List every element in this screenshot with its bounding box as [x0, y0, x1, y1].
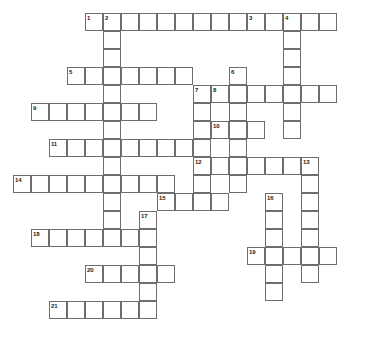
crossword-cell[interactable] — [85, 139, 103, 157]
crossword-cell[interactable] — [175, 67, 193, 85]
crossword-cell[interactable] — [139, 175, 157, 193]
crossword-cell[interactable] — [139, 67, 157, 85]
crossword-cell[interactable] — [139, 301, 157, 319]
crossword-cell[interactable] — [193, 193, 211, 211]
crossword-cell[interactable] — [85, 103, 103, 121]
crossword-cell[interactable] — [193, 103, 211, 121]
crossword-cell[interactable] — [265, 265, 283, 283]
crossword-cell[interactable] — [121, 139, 139, 157]
crossword-cell[interactable] — [49, 301, 67, 319]
crossword-cell[interactable] — [49, 139, 67, 157]
crossword-cell[interactable] — [121, 103, 139, 121]
crossword-cell[interactable] — [301, 265, 319, 283]
crossword-cell[interactable] — [157, 139, 175, 157]
crossword-cell[interactable] — [265, 229, 283, 247]
crossword-cell[interactable] — [211, 157, 229, 175]
crossword-cell[interactable] — [265, 283, 283, 301]
crossword-cell[interactable] — [103, 175, 121, 193]
crossword-cell[interactable] — [13, 175, 31, 193]
crossword-cell[interactable] — [229, 67, 247, 85]
crossword-cell[interactable] — [247, 121, 265, 139]
crossword-cell[interactable] — [103, 13, 121, 31]
crossword-cell[interactable] — [103, 193, 121, 211]
crossword-cell[interactable] — [193, 13, 211, 31]
crossword-cell[interactable] — [229, 175, 247, 193]
crossword-cell[interactable] — [193, 175, 211, 193]
crossword-cell[interactable] — [103, 229, 121, 247]
crossword-cell[interactable] — [193, 139, 211, 157]
crossword-cell[interactable] — [283, 67, 301, 85]
crossword-cell[interactable] — [31, 229, 49, 247]
crossword-cell[interactable] — [229, 103, 247, 121]
crossword-cell[interactable] — [157, 175, 175, 193]
crossword-cell[interactable] — [319, 247, 337, 265]
crossword-cell[interactable] — [247, 247, 265, 265]
crossword-cell[interactable] — [193, 85, 211, 103]
crossword-cell[interactable] — [301, 85, 319, 103]
crossword-cell[interactable] — [157, 265, 175, 283]
crossword-cell[interactable] — [211, 121, 229, 139]
crossword-cell[interactable] — [229, 139, 247, 157]
crossword-cell[interactable] — [265, 247, 283, 265]
crossword-cell[interactable] — [85, 265, 103, 283]
crossword-cell[interactable] — [49, 229, 67, 247]
crossword-cell[interactable] — [211, 193, 229, 211]
crossword-cell[interactable] — [103, 265, 121, 283]
crossword-cell[interactable] — [301, 193, 319, 211]
crossword-cell[interactable] — [175, 139, 193, 157]
crossword-cell[interactable] — [103, 49, 121, 67]
crossword-cell[interactable] — [67, 67, 85, 85]
crossword-cell[interactable] — [265, 13, 283, 31]
crossword-cell[interactable] — [121, 229, 139, 247]
crossword-cell[interactable] — [139, 229, 157, 247]
crossword-cell[interactable] — [175, 13, 193, 31]
crossword-cell[interactable] — [85, 13, 103, 31]
crossword-cell[interactable] — [283, 85, 301, 103]
crossword-cell[interactable] — [121, 67, 139, 85]
crossword-cell[interactable] — [121, 13, 139, 31]
crossword-cell[interactable] — [211, 85, 229, 103]
crossword-cell[interactable] — [319, 13, 337, 31]
crossword-cell[interactable] — [121, 175, 139, 193]
crossword-cell[interactable] — [193, 121, 211, 139]
crossword-cell[interactable] — [247, 85, 265, 103]
crossword-cell[interactable] — [301, 13, 319, 31]
crossword-cell[interactable] — [283, 157, 301, 175]
crossword-cell[interactable] — [157, 193, 175, 211]
crossword-cell[interactable] — [157, 67, 175, 85]
crossword-cell[interactable] — [265, 157, 283, 175]
crossword-cell[interactable] — [103, 31, 121, 49]
crossword-cell[interactable] — [157, 13, 175, 31]
crossword-cell[interactable] — [67, 175, 85, 193]
crossword-cell[interactable] — [139, 211, 157, 229]
crossword-cell[interactable] — [139, 265, 157, 283]
crossword-cell[interactable] — [283, 49, 301, 67]
crossword-cell[interactable] — [139, 13, 157, 31]
crossword-cell[interactable] — [283, 247, 301, 265]
crossword-cell[interactable] — [103, 301, 121, 319]
crossword-cell[interactable] — [103, 139, 121, 157]
crossword-cell[interactable] — [49, 103, 67, 121]
crossword-cell[interactable] — [103, 157, 121, 175]
crossword-cell[interactable] — [229, 13, 247, 31]
crossword-cell[interactable] — [103, 67, 121, 85]
crossword-cell[interactable] — [85, 175, 103, 193]
crossword-cell[interactable] — [229, 121, 247, 139]
crossword-cell[interactable] — [265, 193, 283, 211]
crossword-cell[interactable] — [85, 301, 103, 319]
crossword-cell[interactable] — [103, 211, 121, 229]
crossword-cell[interactable] — [175, 193, 193, 211]
crossword-cell[interactable] — [121, 265, 139, 283]
crossword-cell[interactable] — [67, 301, 85, 319]
crossword-cell[interactable] — [283, 121, 301, 139]
crossword-cell[interactable] — [283, 103, 301, 121]
crossword-cell[interactable] — [31, 103, 49, 121]
crossword-cell[interactable] — [103, 103, 121, 121]
crossword-cell[interactable] — [283, 13, 301, 31]
crossword-cell[interactable] — [85, 229, 103, 247]
crossword-cell[interactable] — [211, 13, 229, 31]
crossword-cell[interactable] — [265, 85, 283, 103]
crossword-cell[interactable] — [31, 175, 49, 193]
crossword-cell[interactable] — [283, 31, 301, 49]
crossword-cell[interactable] — [139, 139, 157, 157]
